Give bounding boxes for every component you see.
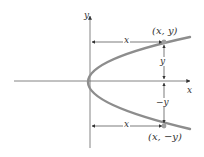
lower-y-dimension-label: −y [155,98,170,107]
x-axis-label: x [186,86,193,95]
point-upper [162,40,167,45]
point-upper-label: (x, y) [151,26,178,36]
parabola-curve [88,37,190,129]
point-lower-label: (x, −y) [147,132,183,142]
y-axis-label: y [83,11,90,20]
point-lower [162,124,167,129]
lower-x-dimension-label: x [123,120,130,129]
upper-y-dimension-label: y [159,57,166,66]
upper-x-dimension-label: x [123,36,130,45]
